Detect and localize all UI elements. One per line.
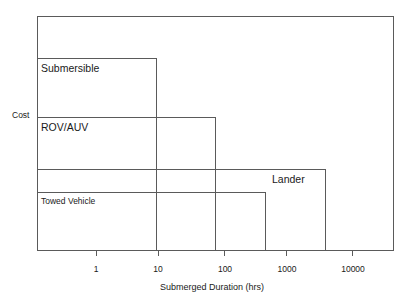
box-label-submersible: Submersible (41, 62, 100, 74)
box-rov-auv (38, 118, 216, 251)
box-label-rov-auv: ROV/AUV (41, 121, 88, 133)
chart-figure: Submersible ROV/AUV Lander Towed Vehicle… (0, 0, 409, 302)
box-label-lander: Lander (272, 173, 305, 185)
y-axis-title: Cost (12, 110, 30, 120)
cost-vs-duration-chart: Submersible ROV/AUV Lander Towed Vehicle… (0, 0, 409, 302)
box-submersible (38, 59, 157, 251)
xtick-label-100: 100 (218, 264, 232, 274)
x-axis-title: Submerged Duration (hrs) (160, 282, 264, 292)
box-label-towed-vehicle: Towed Vehicle (41, 196, 96, 206)
xtick-label-10: 10 (153, 264, 163, 274)
xtick-label-1: 1 (94, 264, 99, 274)
xtick-label-1000: 1000 (278, 264, 297, 274)
xtick-label-10000: 10000 (341, 264, 365, 274)
